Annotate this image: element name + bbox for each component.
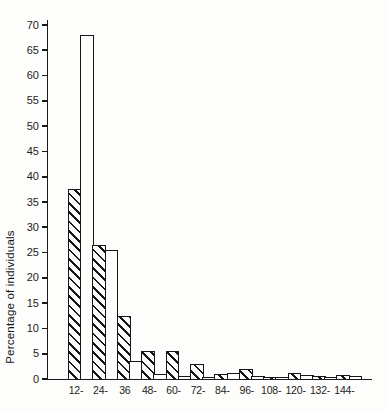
x-category-label-60-: 60- bbox=[166, 384, 181, 396]
y-tick-label-20: 20 bbox=[9, 272, 39, 283]
y-tick-label-10: 10 bbox=[9, 323, 39, 334]
y-axis-tick-60 bbox=[42, 75, 47, 77]
y-axis-tick-25 bbox=[42, 252, 47, 254]
x-category-label-120-: 120- bbox=[285, 384, 305, 396]
y-tick-label-0: 0 bbox=[9, 374, 39, 385]
y-axis-tick-0 bbox=[42, 378, 47, 380]
y-axis-tick-50 bbox=[42, 125, 47, 127]
x-category-label-24-: 24- bbox=[93, 384, 108, 396]
y-tick-label-45: 45 bbox=[9, 146, 39, 157]
x-category-label-108-: 108- bbox=[261, 384, 281, 396]
y-axis-tick-65 bbox=[42, 49, 47, 51]
x-category-label-96-: 96- bbox=[240, 384, 255, 396]
y-tick-label-40: 40 bbox=[9, 171, 39, 182]
x-category-label-144-: 144- bbox=[334, 384, 354, 396]
y-tick-label-50: 50 bbox=[9, 121, 39, 132]
y-tick-label-70: 70 bbox=[9, 20, 39, 31]
y-tick-label-5: 5 bbox=[9, 348, 39, 359]
y-axis-tick-10 bbox=[42, 328, 47, 330]
y-tick-label-15: 15 bbox=[9, 298, 39, 309]
x-category-label-132-: 132- bbox=[310, 384, 330, 396]
bar-open-144- bbox=[349, 376, 363, 379]
y-axis-tick-40 bbox=[42, 176, 47, 178]
y-tick-label-60: 60 bbox=[9, 70, 39, 81]
y-axis-tick-70 bbox=[42, 24, 47, 26]
y-tick-label-65: 65 bbox=[9, 45, 39, 56]
y-axis-tick-55 bbox=[42, 100, 47, 102]
x-category-label-72-: 72- bbox=[191, 384, 206, 396]
x-category-label-12-: 12- bbox=[69, 384, 84, 396]
x-category-label-84-: 84- bbox=[215, 384, 230, 396]
x-category-label-36: 36 bbox=[119, 384, 130, 396]
y-tick-label-30: 30 bbox=[9, 222, 39, 233]
y-axis-tick-30 bbox=[42, 226, 47, 228]
y-axis-tick-35 bbox=[42, 201, 47, 203]
y-axis-tick-5 bbox=[42, 353, 47, 355]
y-tick-label-25: 25 bbox=[9, 247, 39, 258]
bar-hatched-60- bbox=[166, 351, 180, 379]
histogram-figure: Percentage of individuals 05101520253035… bbox=[0, 0, 386, 412]
y-tick-label-55: 55 bbox=[9, 95, 39, 106]
y-axis-tick-15 bbox=[42, 302, 47, 304]
y-axis-tick-45 bbox=[42, 151, 47, 153]
y-tick-label-35: 35 bbox=[9, 197, 39, 208]
y-axis-tick-20 bbox=[42, 277, 47, 279]
x-category-label-48-: 48- bbox=[142, 384, 157, 396]
